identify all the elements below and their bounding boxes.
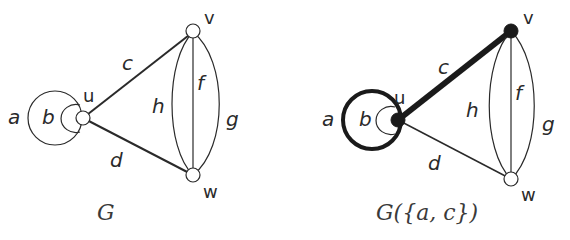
- edge-a-loop: [28, 91, 82, 145]
- edge-label-f: f: [197, 71, 207, 95]
- edge-label-b: b: [42, 105, 55, 129]
- edge-label-a: a: [322, 107, 334, 131]
- edge-c: [83, 32, 193, 118]
- edge-label-d: d: [428, 151, 441, 175]
- graph-G: [28, 24, 219, 182]
- edge-label-c: c: [438, 55, 449, 79]
- edge-label-c: c: [122, 51, 133, 75]
- edge-g-arc: [193, 32, 219, 175]
- caption-G-ac: G({a, c}): [376, 200, 478, 225]
- edge-label-a: a: [8, 105, 20, 129]
- edge-g-arc: [511, 31, 534, 179]
- vertex-u-filled: [391, 113, 405, 127]
- vertex-u: [76, 111, 90, 125]
- edge-label-g: g: [542, 112, 555, 136]
- figure: a b c d f g h u v w G a b c d f: [0, 0, 570, 240]
- edge-label-f: f: [515, 81, 525, 105]
- edge-h-arc: [172, 32, 193, 175]
- caption-G-args: ({a, c}): [394, 200, 479, 225]
- edge-label-b: b: [359, 107, 372, 131]
- vertex-label-v: v: [204, 7, 215, 28]
- edge-d: [398, 120, 511, 179]
- vertex-w: [504, 172, 518, 186]
- caption-G: G: [97, 200, 115, 225]
- edge-label-h: h: [152, 94, 165, 118]
- vertex-label-w: w: [203, 181, 218, 202]
- edge-c-bold: [398, 31, 511, 120]
- caption-G-main: G: [376, 200, 394, 225]
- edge-label-h: h: [466, 98, 479, 122]
- vertex-v-filled: [504, 24, 518, 38]
- vertex-label-w: w: [521, 184, 536, 205]
- edge-d: [83, 118, 193, 175]
- vertex-label-v: v: [523, 7, 534, 28]
- vertex-label-u: u: [83, 85, 94, 106]
- graph-G-ac-labels: a b c d f g h u v w G({a, c}): [322, 7, 555, 225]
- vertex-w: [186, 168, 200, 182]
- edge-h-arc: [489, 31, 511, 179]
- edge-label-g: g: [226, 107, 239, 131]
- vertex-label-u: u: [394, 87, 405, 108]
- edge-label-d: d: [110, 148, 123, 172]
- graph-G-labels: a b c d f g h u v w G: [8, 7, 239, 225]
- vertex-v: [186, 24, 200, 38]
